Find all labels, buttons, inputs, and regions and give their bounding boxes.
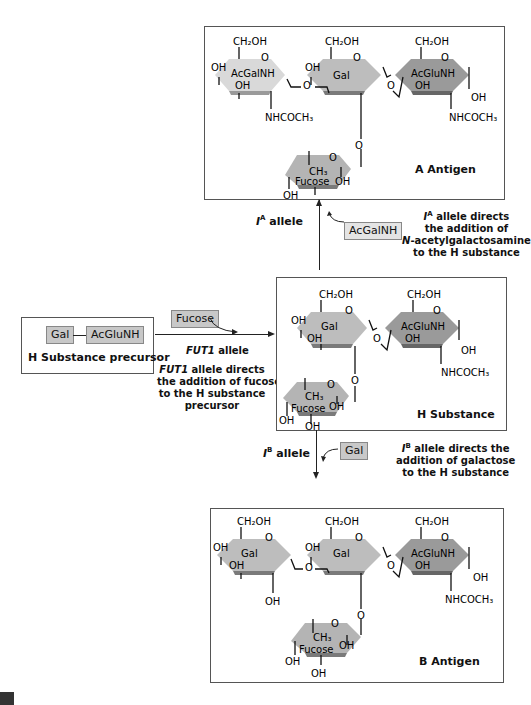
acglunh-label: AcGluNH [401,321,445,332]
svg-text:CH₂OH: CH₂OH [319,289,353,300]
svg-text:OH: OH [461,345,476,356]
svg-text:OH: OH [311,668,326,679]
svg-text:OH: OH [291,315,306,326]
svg-text:OH: OH [307,333,322,344]
svg-text:CH₂OH: CH₂OH [325,516,359,527]
fut1-allele-label: FUT1 allele [186,345,249,356]
ib-allele-label: IB allele [263,446,310,460]
acgalnh-tag: AcGalNH [344,222,402,240]
page-corner-marker [0,692,14,705]
ch2oh-label: CH₂OH [233,36,267,47]
fucose-label: Fucose [295,176,330,187]
gal-label: Gal [333,70,350,81]
svg-text:O: O [355,532,363,543]
svg-text:OH: OH [415,80,430,91]
svg-text:OH: OH [235,80,250,91]
svg-text:OH: OH [329,401,344,412]
svg-text:O: O [305,562,313,573]
svg-text:O: O [353,52,361,63]
fucose-label: Fucose [291,403,326,414]
gal-label: Gal [333,548,350,559]
svg-text:NHCOCH₃: NHCOCH₃ [445,594,493,605]
svg-text:O: O [355,140,363,151]
svg-text:OH: OH [283,190,298,199]
svg-text:OH: OH [305,62,320,73]
svg-text:O: O [303,80,311,91]
svg-text:O: O [433,305,441,316]
fut1-note: FUT1 allele directs the addition of fuco… [157,364,267,412]
svg-text:NHCOCH₃: NHCOCH₃ [265,112,313,123]
svg-text:O: O [373,333,381,344]
ia-note: IA allele directs the addition of N-acet… [402,208,531,259]
h-substance-panel: CH₂OH O OH Gal OH O CH₂OH O AcGluNH OH O… [276,277,507,431]
precursor-acglunh-tag: AcGluNH [86,326,144,344]
svg-text:O: O [327,379,335,390]
svg-text:OH: OH [279,415,294,426]
gal-label: Gal [321,321,338,332]
svg-text:OH: OH [339,640,354,651]
svg-text:OH: OH [305,542,320,553]
arrow-head-right-icon [268,331,275,337]
precursor-gal-tag: Gal [46,326,74,344]
svg-text:OH: OH [305,421,320,430]
svg-text:O: O [261,52,269,63]
a-antigen-panel: CH₂OH O OH AcGalNH OH NHCOCH₃ O CH₂OH O … [204,26,505,200]
curved-arrow-icon [208,316,240,336]
svg-text:O: O [357,610,365,621]
a-antigen-title: A Antigen [415,163,476,176]
h-substance-title: H Substance [417,408,495,421]
svg-text:OH: OH [211,62,226,73]
svg-text:OH: OH [473,572,488,583]
svg-text:O: O [331,618,339,629]
svg-text:CH₂OH: CH₂OH [415,36,449,47]
svg-text:OH: OH [213,542,228,553]
svg-text:O: O [387,560,395,571]
fucose-label: Fucose [299,644,334,655]
ib-note: IB allele directs the addition of galact… [396,440,515,479]
b-antigen-title: B Antigen [419,655,480,668]
svg-text:O: O [345,305,353,316]
svg-text:OH: OH [415,560,430,571]
svg-text:OH: OH [265,596,280,607]
gal-tag: Gal [340,442,368,460]
acgalnh-label: AcGalNH [231,68,275,79]
svg-text:O: O [441,52,449,63]
curved-arrow-icon [320,446,340,462]
svg-text:OH: OH [335,176,350,187]
precursor-bond [73,335,87,336]
ia-allele-label: IA allele [256,214,303,228]
svg-text:CH₃: CH₃ [305,391,324,402]
svg-text:OH: OH [471,92,486,103]
svg-text:OH: OH [229,560,244,571]
svg-text:OH: OH [405,333,420,344]
svg-text:CH₂OH: CH₂OH [407,289,441,300]
acglunh-label: AcGluNH [411,548,455,559]
svg-text:OH: OH [285,656,300,667]
svg-text:O: O [351,375,359,386]
svg-text:NHCOCH₃: NHCOCH₃ [449,112,497,123]
svg-text:CH₂OH: CH₂OH [415,516,449,527]
b-antigen-panel: CH₂OH O OH Gal OH OH O CH₂OH O OH Gal O … [210,508,504,683]
svg-text:NHCOCH₃: NHCOCH₃ [441,367,489,378]
precursor-title: H Substance precursor [28,351,170,364]
ia-arrow [319,200,320,270]
svg-text:CH₂OH: CH₂OH [325,36,359,47]
svg-text:O: O [387,80,395,91]
svg-text:O: O [265,532,273,543]
curved-arrow-icon [326,210,346,226]
svg-text:CH₂OH: CH₂OH [237,516,271,527]
svg-text:CH₃: CH₃ [313,632,332,643]
arrow-head-up-icon [316,199,322,206]
acglunh-label: AcGluNH [411,68,455,79]
svg-text:O: O [329,152,337,163]
ib-arrow [316,430,317,474]
h-precursor-panel: Gal AcGluNH H Substance precursor [21,317,154,374]
svg-text:O: O [441,532,449,543]
arrow-head-down-icon [313,472,319,479]
gal-label: Gal [241,548,258,559]
